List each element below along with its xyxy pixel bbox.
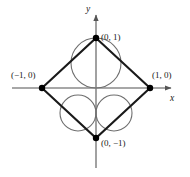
figure-canvas bbox=[0, 0, 190, 177]
lower-right-circle bbox=[96, 95, 132, 131]
label-point-top: (0, 1) bbox=[101, 33, 121, 42]
label-point-right: (1, 0) bbox=[152, 71, 172, 80]
lower-left-circle bbox=[60, 95, 96, 131]
label-point-left: (−1, 0) bbox=[11, 71, 36, 80]
vertex-point-top bbox=[93, 35, 99, 41]
label-point-bottom: (0, −1) bbox=[101, 139, 126, 148]
geometry-figure: (0, 1) (−1, 0) (1, 0) (0, −1) x y bbox=[0, 0, 190, 177]
label-x-axis: x bbox=[170, 94, 174, 104]
vertex-point-bottom bbox=[93, 135, 99, 141]
label-y-axis: y bbox=[86, 5, 90, 15]
vertex-point-left bbox=[39, 85, 45, 91]
vertex-point-right bbox=[147, 85, 153, 91]
